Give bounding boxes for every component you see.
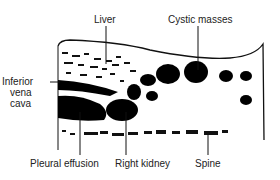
pleural-effusion-region [58, 96, 106, 121]
pleural-effusion-label: Pleural effusion [30, 158, 99, 169]
spine-label: Spine [195, 158, 221, 169]
ivc-label-line3: cava [10, 98, 31, 109]
liver-texture [62, 52, 136, 82]
ivc-label-line2: vena [10, 87, 32, 98]
ivc-band [58, 80, 118, 96]
liver-label: Liver [94, 14, 116, 25]
cystic-masses-label: Cystic masses [168, 14, 232, 25]
right-kidney-label: Right kidney [115, 158, 170, 169]
spine-texture [62, 130, 228, 136]
ultrasound-diagram [0, 0, 280, 180]
cystic-masses [127, 61, 252, 105]
right-kidney-region [106, 99, 138, 121]
ivc-label-line1: Inferior [2, 76, 33, 87]
